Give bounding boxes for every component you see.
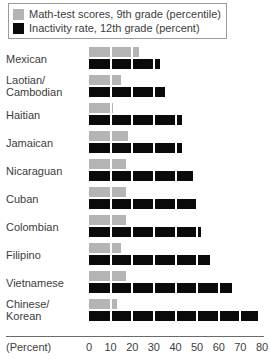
bar-gridline [175,158,177,182]
bar-gridline [110,102,112,126]
x-axis-tick-label: 80 [256,341,268,354]
bar-gridline [131,298,133,322]
legend-label-inactivity-rate: Inactivity rate, 12th grade (percent) [29,22,200,35]
bar-inactivity-rate [89,227,201,237]
bar-inactivity-rate [89,199,197,209]
bar-gridline [196,242,198,266]
bar-math-test-scores [89,243,121,253]
chart-row: Nicaraguan [0,158,270,186]
bar-gridline [239,298,241,322]
bar-gridline [110,186,112,210]
bar-gridline [175,298,177,322]
legend-swatch-math-test-scores [13,9,24,20]
bar-group [0,102,270,130]
bar-math-test-scores [89,75,121,85]
bar-inactivity-rate [89,171,193,181]
legend-item-inactivity-rate: Inactivity rate, 12th grade (percent) [13,21,221,35]
bar-gridline [153,74,155,98]
x-axis-unit-label: (Percent) [6,341,51,354]
bar-gridline [110,130,112,154]
bar-group [0,74,270,102]
bar-chart: Math-test scores, 9th grade (percentile)… [0,0,270,359]
bar-group [0,298,270,326]
bar-gridline [110,46,112,70]
chart-legend: Math-test scores, 9th grade (percentile)… [8,3,227,39]
x-axis-line [6,336,264,337]
bar-gridline [153,102,155,126]
bar-gridline [175,270,177,294]
bar-group [0,270,270,298]
bar-inactivity-rate [89,311,258,321]
x-axis-tick-label: 60 [213,341,225,354]
legend-item-math-test-scores: Math-test scores, 9th grade (percentile) [13,7,221,21]
chart-row: Colombian [0,214,270,242]
x-axis-tick-label: 10 [105,341,117,354]
bar-group [0,186,270,214]
chart-row: Filipino [0,242,270,270]
bar-group [0,214,270,242]
legend-label-math-test-scores: Math-test scores, 9th grade (percentile) [29,8,221,21]
bar-gridline [196,298,198,322]
bar-math-test-scores [89,131,128,141]
bar-gridline [131,46,133,70]
x-axis-tick-label: 70 [234,341,246,354]
bar-gridline [218,298,220,322]
bar-inactivity-rate [89,115,182,125]
bar-gridline [175,242,177,266]
bar-inactivity-rate [89,255,210,265]
x-axis-tick-label: 40 [169,341,181,354]
bar-gridline [153,46,155,70]
chart-row: Cuban [0,186,270,214]
x-axis-tick-label: 0 [86,341,92,354]
bar-gridline [110,298,112,322]
plot-area: MexicanLaotian/CambodianHaitianJamaicanN… [0,44,270,336]
bar-gridline [131,270,133,294]
bar-gridline [175,130,177,154]
bar-gridline [153,270,155,294]
chart-row: Laotian/Cambodian [0,74,270,102]
legend-swatch-inactivity-rate [13,23,24,34]
bar-gridline [175,102,177,126]
bar-gridline [218,270,220,294]
bar-math-test-scores [89,215,126,225]
bar-gridline [175,186,177,210]
bar-group [0,46,270,74]
chart-row: Mexican [0,46,270,74]
bar-group [0,158,270,186]
bar-gridline [153,158,155,182]
bar-group [0,242,270,270]
bar-gridline [153,214,155,238]
chart-row: Chinese/Korean [0,298,270,326]
x-axis-tick-label: 30 [148,341,160,354]
bar-gridline [196,186,198,210]
bar-gridline [196,214,198,238]
bar-gridline [153,186,155,210]
bar-gridline [153,298,155,322]
bar-inactivity-rate [89,59,160,69]
bar-gridline [153,130,155,154]
bar-gridline [131,74,133,98]
bar-gridline [131,102,133,126]
bar-inactivity-rate [89,143,182,153]
bar-math-test-scores [89,299,117,309]
bar-gridline [110,214,112,238]
bar-gridline [110,74,112,98]
bar-gridline [110,242,112,266]
bar-gridline [131,186,133,210]
bar-gridline [131,242,133,266]
bar-gridline [196,270,198,294]
bar-gridline [175,214,177,238]
bar-group [0,130,270,158]
x-axis-tick-label: 50 [191,341,203,354]
bar-gridline [131,214,133,238]
bar-math-test-scores [89,159,126,169]
bar-gridline [110,158,112,182]
chart-row: Jamaican [0,130,270,158]
bar-math-test-scores [89,271,126,281]
bar-gridline [153,242,155,266]
x-axis-tick-label: 20 [126,341,138,354]
chart-row: Haitian [0,102,270,130]
bar-gridline [110,270,112,294]
bar-gridline [131,158,133,182]
bar-gridline [131,130,133,154]
